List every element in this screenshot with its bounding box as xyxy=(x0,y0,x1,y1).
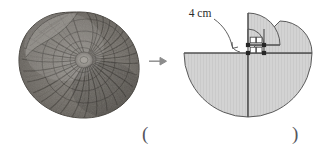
golden-spiral-diagram: 4 cm xyxy=(170,6,314,124)
caption-paren-close: ) xyxy=(292,124,298,143)
leader-arrowhead xyxy=(232,42,238,48)
dimension-label: 4 cm xyxy=(189,7,212,19)
quarter-arc-16 xyxy=(248,53,312,117)
quarter-arc-32 xyxy=(184,53,248,117)
ammonite-fossil-photograph xyxy=(14,9,142,121)
arrow-right-icon xyxy=(148,52,168,70)
figure-screenshot: 4 cm ( ) xyxy=(0,0,318,155)
caption-paren-open: ( xyxy=(142,124,148,143)
